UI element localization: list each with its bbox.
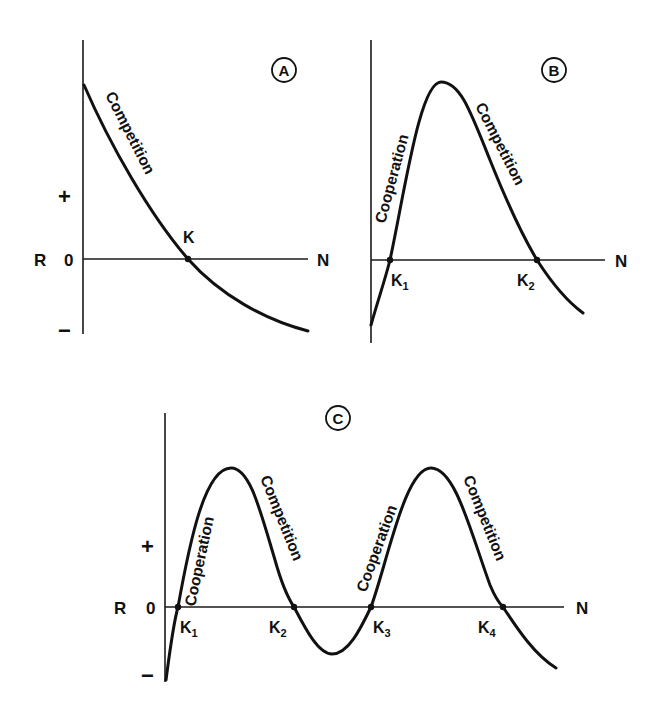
panel-b-letter: B (549, 62, 560, 79)
panel-c-letter: C (333, 410, 344, 427)
panel-a-k-point (185, 256, 191, 262)
panel-c-k2-label: K2 (269, 619, 287, 639)
panel-c-plus-label: + (141, 534, 154, 559)
panel-a-x-label: N (317, 251, 329, 270)
panel-c-k1-label: K1 (180, 619, 198, 639)
panel-b-k1-label: K1 (391, 272, 409, 292)
panel-b-x-label: N (615, 252, 627, 271)
panel-b-k2-label: K2 (517, 272, 535, 292)
panel-b-k1-point (387, 257, 393, 263)
panel-c-k3-point (368, 604, 374, 610)
panel-c-x-label: N (576, 599, 588, 618)
panel-c-k4-point (500, 604, 506, 610)
panel-a-minus-label: − (58, 318, 71, 343)
population-growth-diagram: A R 0 + − N K Competition B N K1 K2 Coop… (0, 0, 658, 708)
panel-b: B N K1 K2 Cooperation Competition (371, 40, 627, 343)
panel-c-y-label: R (114, 599, 126, 618)
panel-a-k-label: K (183, 229, 195, 246)
panel-a-competition-label: Competition (102, 89, 158, 177)
panel-c: C R 0 + − N K1 K2 K3 K4 Cooperation Comp… (114, 406, 588, 688)
panel-c-k3-label: K3 (373, 619, 391, 639)
panel-b-k2-point (534, 257, 540, 263)
panel-c-competition-1-label: Competition (257, 473, 307, 563)
panel-a-zero-label: 0 (64, 251, 73, 270)
panel-c-k4-label: K4 (478, 619, 497, 639)
panel-c-zero-label: 0 (146, 599, 155, 618)
panel-a: A R 0 + − N K Competition (34, 40, 329, 343)
panel-a-plus-label: + (58, 184, 71, 209)
panel-c-minus-label: − (141, 663, 154, 688)
panel-b-competition-label: Competition (472, 100, 528, 188)
panel-c-cooperation-2-label: Cooperation (353, 502, 400, 594)
panel-c-k2-point (291, 604, 297, 610)
panel-a-letter: A (279, 62, 290, 79)
panel-a-y-label: R (34, 251, 46, 270)
